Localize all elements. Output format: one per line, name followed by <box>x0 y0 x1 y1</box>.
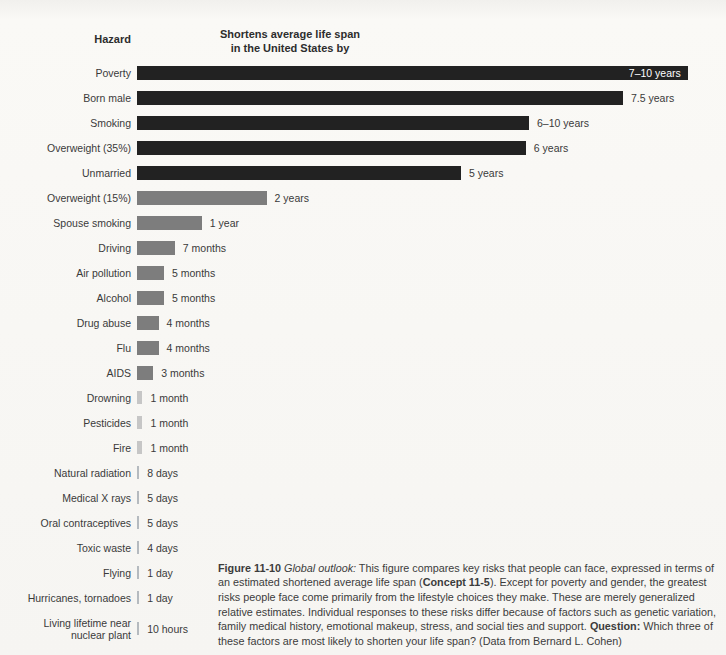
hazard-bar <box>137 191 267 205</box>
value-label: 5 days <box>147 492 178 504</box>
bar-area: 4 days <box>137 541 178 554</box>
hazard-label: Drowning <box>0 392 131 404</box>
chart-row: Overweight (35%)6 years <box>0 135 726 160</box>
hazard-bar <box>137 291 164 305</box>
hazard-bar <box>137 366 153 380</box>
bar-area: 3 months <box>137 366 204 380</box>
hazard-label: Alcohol <box>0 292 131 304</box>
bar-area: 1 month <box>137 391 188 404</box>
value-column-header-line1: Shortens average life span <box>180 27 400 41</box>
value-label: 2 years <box>275 192 309 204</box>
hazard-label: Born male <box>0 92 131 104</box>
hazard-bar <box>137 622 139 635</box>
hazard-label: Oral contraceptives <box>0 517 131 529</box>
hazard-bar <box>137 341 159 355</box>
hazard-bar <box>137 516 139 529</box>
value-label: 1 month <box>150 442 188 454</box>
chart-row: Pesticides1 month <box>0 410 726 435</box>
value-label: 4 months <box>167 342 210 354</box>
chart-row: Drowning1 month <box>0 385 726 410</box>
value-label: 4 months <box>167 317 210 329</box>
value-label: 6–10 years <box>537 117 589 129</box>
bar-area: 1 year <box>137 216 239 230</box>
chart-row: Fire1 month <box>0 435 726 460</box>
chart-row: Poverty7–10 years <box>0 60 726 85</box>
figure-caption: Figure 11-10 Global outlook: This figure… <box>218 561 723 649</box>
bar-area: 4 months <box>137 316 210 330</box>
bar-area: 5 months <box>137 266 215 280</box>
hazard-label: Medical X rays <box>0 492 131 504</box>
bar-area: 1 day <box>137 566 173 579</box>
value-label: 5 years <box>469 167 503 179</box>
hazard-label: Toxic waste <box>0 542 131 554</box>
value-label: 3 months <box>161 367 204 379</box>
caption-segment: Concept 11-5 <box>423 576 490 588</box>
chart-row: Overweight (15%)2 years <box>0 185 726 210</box>
value-label: 7 months <box>183 242 226 254</box>
hazard-bar <box>137 266 164 280</box>
value-label: 7–10 years <box>629 67 688 79</box>
value-label: 1 month <box>150 417 188 429</box>
hazard-label: Flying <box>0 567 131 579</box>
hazard-label: Fire <box>0 442 131 454</box>
value-label: 5 days <box>147 517 178 529</box>
value-label: 1 month <box>150 392 188 404</box>
hazard-label: Spouse smoking <box>0 217 131 229</box>
hazard-bar <box>137 416 142 429</box>
hazard-bar <box>137 166 461 180</box>
hazard-label: Unmarried <box>0 167 131 179</box>
bar-area: 1 day <box>137 591 173 604</box>
bar-area: 2 years <box>137 191 309 205</box>
value-label: 1 year <box>210 217 239 229</box>
chart-row: Born male7.5 years <box>0 85 726 110</box>
bar-area: 7.5 years <box>137 91 674 105</box>
bar-area: 1 month <box>137 441 188 454</box>
chart-row: Smoking6–10 years <box>0 110 726 135</box>
chart-row: Drug abuse4 months <box>0 310 726 335</box>
chart-rows: Poverty7–10 yearsBorn male7.5 yearsSmoki… <box>0 60 726 647</box>
value-label: 7.5 years <box>631 92 674 104</box>
value-label: 4 days <box>147 542 178 554</box>
hazard-bar <box>137 591 139 604</box>
bar-area: 5 days <box>137 491 178 504</box>
hazard-bar <box>137 466 139 479</box>
hazard-label: Overweight (15%) <box>0 192 131 204</box>
bar-area: 4 months <box>137 341 210 355</box>
bar-area: 10 hours <box>137 622 188 635</box>
hazard-bar <box>137 116 529 130</box>
value-label: 1 day <box>147 592 173 604</box>
chart-row: Unmarried5 years <box>0 160 726 185</box>
value-label: 5 months <box>172 292 215 304</box>
hazard-bar <box>137 541 139 554</box>
hazard-bar <box>137 566 139 579</box>
value-label: 1 day <box>147 567 173 579</box>
hazard-bar <box>137 441 142 454</box>
value-column-header-line2: in the United States by <box>180 41 400 55</box>
bar-area: 7 months <box>137 241 226 255</box>
figure-page: Hazard Shortens average life span in the… <box>0 0 726 655</box>
value-label: 10 hours <box>147 623 188 635</box>
value-label: 8 days <box>147 467 178 479</box>
bar-area: 5 days <box>137 516 178 529</box>
chart-row: Flu4 months <box>0 335 726 360</box>
hazard-label: Overweight (35%) <box>0 142 131 154</box>
value-label: 5 months <box>172 267 215 279</box>
hazard-label: AIDS <box>0 367 131 379</box>
hazard-bar <box>137 91 623 105</box>
chart-row: Air pollution5 months <box>0 260 726 285</box>
bar-area: 6 years <box>137 141 568 155</box>
hazard-label: Flu <box>0 342 131 354</box>
chart-row: Toxic waste4 days <box>0 535 726 560</box>
caption-segment: Figure 11-10 <box>218 562 281 574</box>
value-label: 6 years <box>534 142 568 154</box>
hazard-bar <box>137 141 526 155</box>
caption-segment: Question: <box>590 620 640 632</box>
hazard-label: Smoking <box>0 117 131 129</box>
value-column-header: Shortens average life span in the United… <box>180 27 400 55</box>
hazard-label: Natural radiation <box>0 467 131 479</box>
hazard-label: Hurricanes, tornadoes <box>0 592 131 604</box>
bar-area: 8 days <box>137 466 178 479</box>
chart-row: Natural radiation8 days <box>0 460 726 485</box>
hazard-column-header: Hazard <box>0 33 131 45</box>
hazard-label: Driving <box>0 242 131 254</box>
